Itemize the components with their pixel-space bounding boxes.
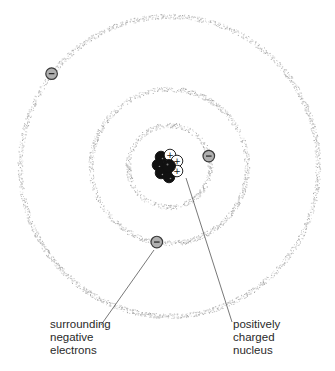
orbit-speck [142,137,143,138]
label-line: nucleus [233,344,280,357]
orbit-speck [22,133,23,134]
orbit-speck [313,136,314,137]
orbit-speck [309,116,310,117]
orbit-speck [198,135,199,136]
orbit-speck [104,121,105,122]
orbit-speck [103,126,104,127]
orbit-speck [277,63,278,64]
orbit-speck [130,148,131,149]
orbit-speck [234,211,235,212]
orbit-speck [98,137,99,138]
orbit-speck [219,226,220,227]
orbit-speck [127,175,128,176]
orbit-speck [129,158,130,159]
orbit-speck [312,120,313,121]
orbit-speck [76,47,77,48]
orbit-speck [47,82,48,83]
neutron-highlight [170,178,172,180]
orbit-speck [65,273,66,274]
orbit-speck [187,127,188,128]
orbit-speck [124,230,125,231]
orbit-speck [290,82,291,83]
orbit-speck [141,139,142,140]
orbit-speck [102,132,103,133]
orbit-speck [286,70,287,71]
orbit-speck [127,101,128,102]
orbit-speck [231,214,232,215]
orbit-speck [38,234,39,235]
orbit-speck [191,19,192,20]
orbit-speck [315,192,316,193]
orbit-speck [188,199,189,200]
orbit-speck [319,158,320,159]
orbit-speck [208,310,209,311]
orbit-speck [171,243,172,244]
orbit-speck [289,255,290,256]
orbit-speck [148,19,149,20]
orbit-speck [25,138,26,139]
orbit-speck [143,95,144,96]
orbit-speck [32,221,33,222]
orbit-speck [160,208,161,209]
orbit-speck [59,266,60,267]
orbit-speck [209,167,210,168]
orbit-speck [125,228,126,229]
orbit-speck [244,150,245,151]
orbit-speck [245,140,246,141]
orbit-speck [296,89,297,90]
orbit-speck [43,83,44,84]
orbit-speck [109,306,110,307]
orbit-speck [300,93,301,94]
orbit-speck [107,116,108,117]
orbit-speck [134,150,135,151]
orbit-speck [103,301,104,302]
orbit-speck [174,314,175,315]
orbit-speck [164,90,165,91]
orbit-speck [218,225,219,226]
orbit-speck [95,138,96,139]
orbit-speck [201,142,202,143]
orbit-speck [214,24,215,25]
orbit-speck [19,164,20,165]
orbit-speck [24,126,25,127]
orbit-speck [247,178,248,179]
orbit-speck [173,206,174,207]
orbit-speck [29,217,30,218]
orbit-speck [226,116,227,117]
orbit-speck [311,129,312,130]
orbit-speck [218,109,219,110]
orbit-speck [124,309,125,310]
orbit-speck [316,136,317,137]
orbit-speck [246,187,247,188]
orbit-speck [29,220,30,221]
orbit-speck [22,135,23,136]
orbit-speck [196,237,197,238]
orbit-speck [266,52,267,53]
orbit-speck [247,147,248,148]
orbit-speck [129,155,130,156]
orbit-speck [121,106,122,107]
orbit-speck [236,126,237,127]
orbit-speck [89,164,90,165]
orbit-speck [62,267,63,268]
orbit-speck [96,199,97,200]
orbit-speck [306,111,307,112]
orbit-speck [120,23,121,24]
orbit-speck [28,217,29,218]
orbit-speck [187,205,188,206]
orbit-speck [60,269,61,270]
orbit-speck [166,18,167,19]
orbit-speck [89,42,90,43]
orbit-speck [159,318,160,319]
orbit-speck [97,131,98,132]
orbit-speck [140,135,141,136]
orbit-speck [86,42,87,43]
orbit-speck [127,310,128,311]
orbit-speck [108,28,109,29]
orbit-speck [221,307,222,308]
orbit-speck [170,89,171,90]
orbit-speck [314,131,315,132]
orbit-speck [78,286,79,287]
orbit-speck [86,289,87,290]
orbit-speck [264,284,265,285]
